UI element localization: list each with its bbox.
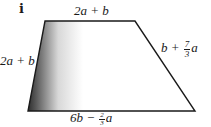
right-label-fraction: 73 xyxy=(184,40,191,59)
trapezium-diagram: i 2a + b 2a + b b + 73a 6b − 23a xyxy=(0,0,211,127)
right-label-prefix: b + xyxy=(161,40,183,55)
bottom-label-suffix: a xyxy=(106,110,113,125)
right-fraction-denominator: 3 xyxy=(184,50,191,59)
right-side-label: b + 73a xyxy=(161,40,198,59)
bottom-label-prefix: 6b − xyxy=(70,110,98,125)
left-side-label: 2a + b xyxy=(0,53,35,69)
bottom-fraction-denominator: 3 xyxy=(99,120,105,127)
bottom-side-label: 6b − 23a xyxy=(70,110,112,127)
top-side-label: 2a + b xyxy=(74,3,109,19)
bottom-label-fraction: 23 xyxy=(99,112,105,127)
right-label-suffix: a xyxy=(191,40,198,55)
